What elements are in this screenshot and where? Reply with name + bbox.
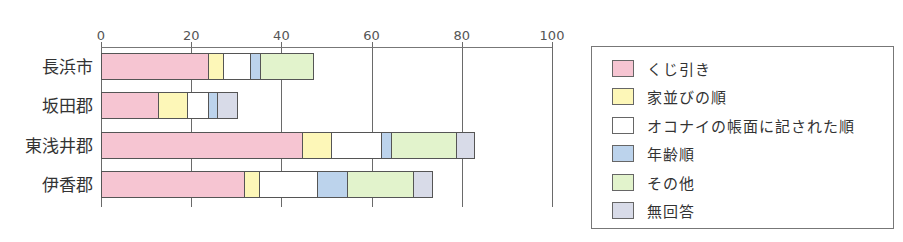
legend-swatch-icon bbox=[612, 60, 634, 77]
category-label: 長浜市 bbox=[0, 57, 93, 77]
legend-item: オコナイの帳面に記された順 bbox=[612, 114, 855, 136]
stacked-bar bbox=[101, 132, 475, 159]
bar-segment bbox=[244, 171, 260, 198]
legend-item: くじ引き bbox=[612, 57, 711, 79]
x-tick-label: 20 bbox=[183, 29, 200, 43]
legend-item: 無回答 bbox=[612, 200, 695, 222]
category-label: 坂田郡 bbox=[0, 96, 93, 116]
legend-label: くじ引き bbox=[647, 58, 711, 79]
x-tick-label: 60 bbox=[363, 29, 380, 43]
x-tick-label: 40 bbox=[273, 29, 290, 43]
bar-segment bbox=[217, 92, 238, 119]
legend-swatch-icon bbox=[612, 117, 634, 134]
stacked-bar bbox=[101, 53, 314, 80]
legend-item: 家並びの順 bbox=[612, 86, 727, 108]
bar-segment bbox=[456, 132, 475, 159]
legend: くじ引き家並びの順オコナイの帳面に記された順年齢順その他無回答 bbox=[591, 46, 894, 229]
bar-segment bbox=[391, 132, 457, 159]
legend-swatch-icon bbox=[612, 88, 634, 105]
legend-label: その他 bbox=[647, 172, 695, 193]
bar-segment bbox=[259, 171, 318, 198]
legend-swatch-icon bbox=[612, 145, 634, 162]
bar-segment bbox=[317, 171, 348, 198]
legend-label: 無回答 bbox=[647, 200, 695, 221]
bar-segment bbox=[331, 132, 382, 159]
bar-segment bbox=[413, 171, 433, 198]
legend-swatch-icon bbox=[612, 174, 634, 191]
stacked-bar bbox=[101, 171, 433, 198]
category-label: 伊香郡 bbox=[0, 175, 93, 195]
bar-segment bbox=[223, 53, 251, 80]
bar-segment bbox=[101, 92, 159, 119]
gridline bbox=[462, 42, 463, 207]
bar-segment bbox=[101, 132, 303, 159]
x-tick-label: 0 bbox=[97, 29, 105, 43]
legend-item: その他 bbox=[612, 171, 695, 193]
bar-segment bbox=[302, 132, 332, 159]
legend-swatch-icon bbox=[612, 202, 634, 219]
legend-label: オコナイの帳面に記された順 bbox=[647, 115, 855, 136]
legend-label: 家並びの順 bbox=[647, 86, 727, 107]
bar-segment bbox=[101, 171, 245, 198]
x-tick-label: 100 bbox=[540, 29, 565, 43]
bar-segment bbox=[101, 53, 209, 80]
x-axis-line bbox=[101, 47, 552, 48]
legend-item: 年齢順 bbox=[612, 143, 695, 165]
bar-segment bbox=[208, 53, 224, 80]
bar-segment bbox=[187, 92, 209, 119]
bar-segment bbox=[158, 92, 188, 119]
x-tick-label: 80 bbox=[454, 29, 471, 43]
bar-segment bbox=[347, 171, 414, 198]
gridline bbox=[552, 42, 553, 207]
category-label: 東浅井郡 bbox=[0, 136, 93, 156]
legend-label: 年齢順 bbox=[647, 143, 695, 164]
stacked-bar bbox=[101, 92, 238, 119]
bar-segment bbox=[260, 53, 314, 80]
